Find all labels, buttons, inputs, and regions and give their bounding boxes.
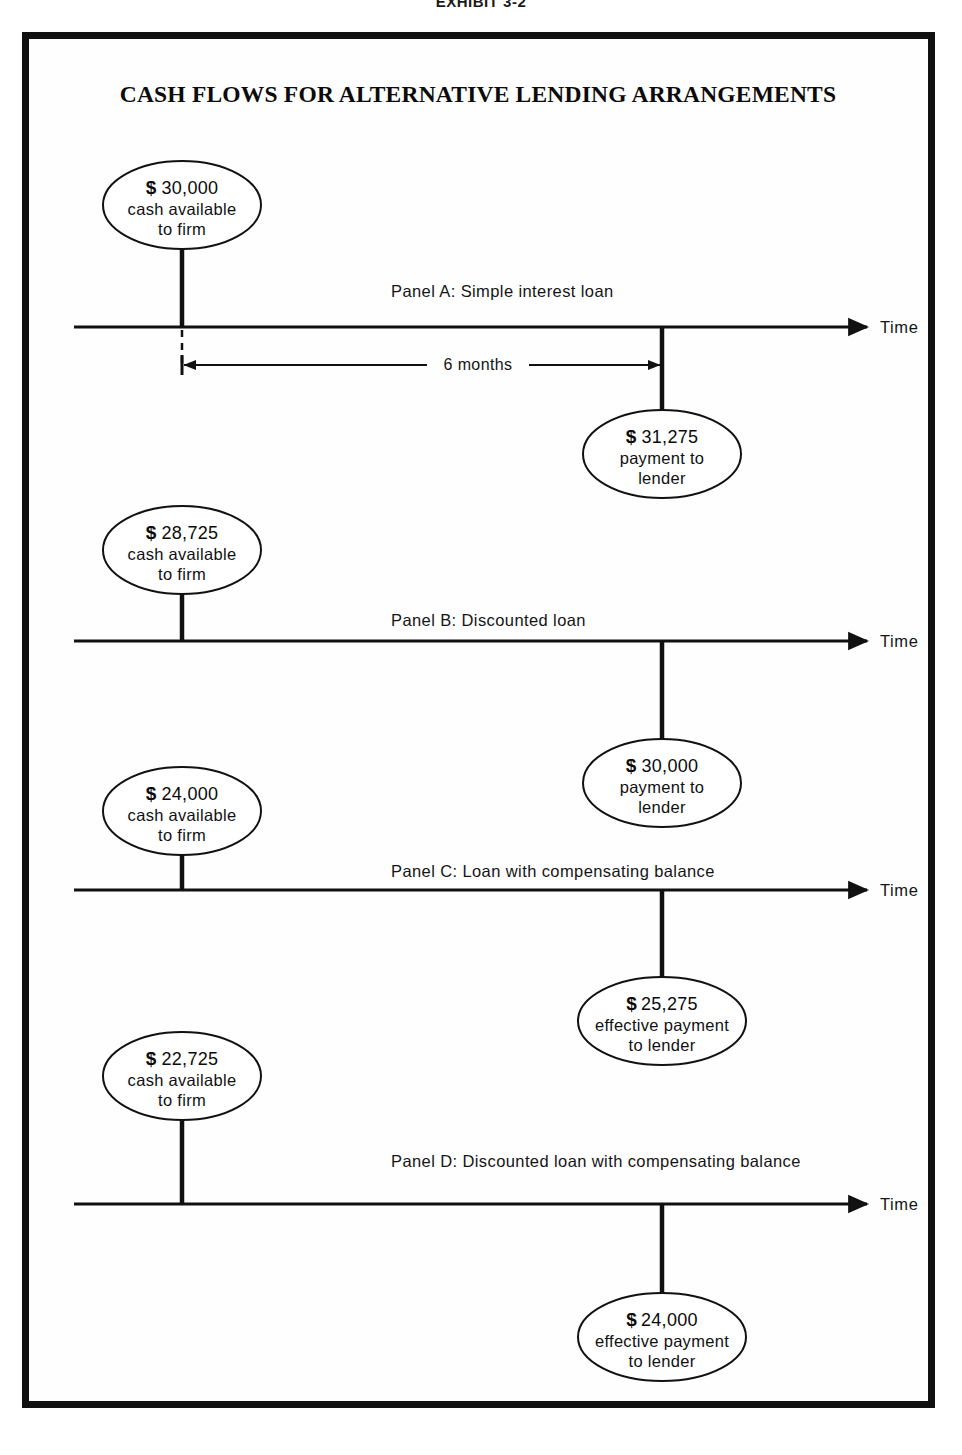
- panel-d-inflow-line2: cash available: [128, 1071, 237, 1089]
- panel-a-inflow-line3: to firm: [158, 220, 206, 238]
- panel-b-inflow-bubble[interactable]: $28,725 cash available to firm: [103, 506, 261, 594]
- panel-b-inflow-line3: to firm: [158, 565, 206, 583]
- panel-a-outflow-line2: payment to: [620, 449, 705, 467]
- panel-d-outflow-bubble[interactable]: $24,000 effective payment to lender: [578, 1293, 746, 1381]
- panel-c-group: $24,000 cash available to firm Panel C: …: [74, 767, 918, 1065]
- panel-c-label: Panel C: Loan with compensating balance: [391, 862, 715, 880]
- figure-frame: CASH FLOWS FOR ALTERNATIVE LENDING ARRAN…: [22, 32, 935, 1408]
- diagram-title: CASH FLOWS FOR ALTERNATIVE LENDING ARRAN…: [120, 81, 837, 107]
- panel-c-outflow-line3: to lender: [629, 1036, 696, 1054]
- panel-a-group: $30,000 cash available to firm Panel A: …: [74, 161, 918, 498]
- panel-d-time-label: Time: [880, 1195, 918, 1213]
- panel-c-outflow-amount: $25,275: [626, 993, 698, 1014]
- panel-d-inflow-line3: to firm: [158, 1091, 206, 1109]
- panel-c-outflow-line2: effective payment: [595, 1016, 729, 1034]
- panel-d-outflow-line2: effective payment: [595, 1332, 729, 1350]
- panel-b-outflow-line2: payment to: [620, 778, 705, 796]
- panel-d-inflow-bubble[interactable]: $22,725 cash available to firm: [103, 1032, 261, 1120]
- panel-b-outflow-bubble[interactable]: $30,000 payment to lender: [583, 739, 741, 827]
- panel-d-group: $22,725 cash available to firm Panel D: …: [74, 1032, 918, 1381]
- panel-a-outflow-bubble[interactable]: $31,275 payment to lender: [583, 410, 741, 498]
- panel-c-outflow-bubble[interactable]: $25,275 effective payment to lender: [578, 977, 746, 1065]
- panel-d-outflow-line3: to lender: [629, 1352, 696, 1370]
- cash-flow-diagram: CASH FLOWS FOR ALTERNATIVE LENDING ARRAN…: [29, 39, 928, 1401]
- exhibit-header: EXHIBIT 3-2: [0, 0, 962, 9]
- panel-a-inflow-line2: cash available: [128, 200, 237, 218]
- figure-inner: CASH FLOWS FOR ALTERNATIVE LENDING ARRAN…: [29, 39, 928, 1401]
- panel-d-outflow-amount: $24,000: [626, 1309, 698, 1330]
- panel-b-outflow-line3: lender: [638, 798, 686, 816]
- panel-a-time-label: Time: [880, 318, 918, 336]
- panel-a-outflow-line3: lender: [638, 469, 686, 487]
- panel-b-label: Panel B: Discounted loan: [391, 611, 586, 629]
- measure-label: 6 months: [443, 356, 512, 373]
- panel-c-time-label: Time: [880, 881, 918, 899]
- panel-d-label: Panel D: Discounted loan with compensati…: [391, 1152, 801, 1170]
- panel-b-time-label: Time: [880, 632, 918, 650]
- panel-b-inflow-line2: cash available: [128, 545, 237, 563]
- panel-c-inflow-bubble[interactable]: $24,000 cash available to firm: [103, 767, 261, 855]
- panel-a-inflow-bubble[interactable]: $30,000 cash available to firm: [103, 161, 261, 249]
- panel-c-inflow-line2: cash available: [128, 806, 237, 824]
- panel-a-label: Panel A: Simple interest loan: [391, 282, 614, 300]
- panel-c-inflow-line3: to firm: [158, 826, 206, 844]
